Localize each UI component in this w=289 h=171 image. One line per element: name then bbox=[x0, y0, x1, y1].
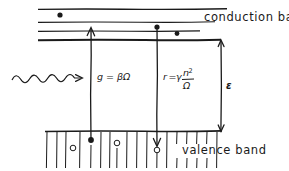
incident-photon-wave bbox=[12, 75, 83, 83]
generation-arrow-shaft bbox=[91, 29, 92, 140]
generation-arrow-up bbox=[87, 28, 94, 141]
valence-band-edge bbox=[45, 131, 222, 132]
band-diagram-canvas: conduction band bbox=[0, 0, 289, 171]
hole-recombination bbox=[154, 147, 160, 153]
conduction-band-lines bbox=[38, 9, 227, 41]
conduction-line-1 bbox=[38, 9, 227, 10]
recombination-arrow-down bbox=[153, 28, 160, 147]
recombination-arrow-shaft bbox=[157, 28, 158, 145]
recombination-formula: r = γ n 2 Ω bbox=[163, 67, 194, 92]
recombination-formula-exponent: 2 bbox=[189, 67, 193, 75]
valence-band-edge-group bbox=[45, 131, 222, 132]
photon-wave-line bbox=[12, 75, 81, 83]
band-gap-double-arrow bbox=[218, 40, 224, 132]
hatch-tick bbox=[46, 132, 47, 168]
hole-middle bbox=[114, 140, 120, 146]
recombination-formula-lhs: r bbox=[163, 71, 168, 82]
recombination-formula-denominator: Ω bbox=[182, 80, 191, 91]
conduction-band-label-group: conduction band bbox=[204, 10, 289, 24]
conduction-band-label: conduction band bbox=[204, 10, 289, 24]
generation-formula-text: g = βΩ bbox=[97, 71, 131, 82]
conduction-band-edge bbox=[38, 40, 221, 41]
conduction-line-2 bbox=[38, 22, 215, 23]
valence-band-label: valence band bbox=[182, 143, 267, 157]
hole-left bbox=[70, 145, 76, 151]
hatch-tick bbox=[66, 132, 67, 168]
conduction-band-electrons bbox=[57, 12, 179, 36]
generation-formula: g = βΩ bbox=[97, 71, 131, 82]
band-diagram-figure: conduction band bbox=[0, 0, 289, 171]
electron-upper-band bbox=[57, 12, 62, 17]
band-gap-label: ε bbox=[226, 80, 232, 91]
recombination-formula-coefficient: γ bbox=[176, 71, 183, 82]
electron-generated bbox=[88, 137, 94, 143]
electron-near-edge bbox=[175, 31, 180, 36]
conduction-line-3 bbox=[38, 31, 200, 32]
band-gap-arrow-shaft bbox=[221, 41, 222, 131]
